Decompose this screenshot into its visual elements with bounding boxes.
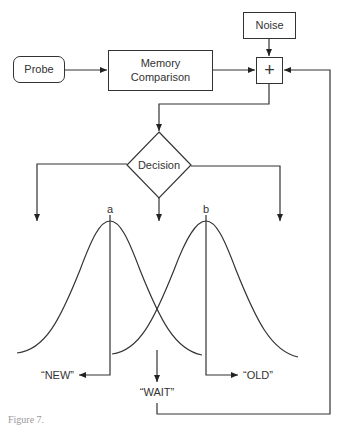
arrow-criterion-b-to-old — [206, 215, 238, 375]
probe-node: Probe — [13, 56, 65, 83]
arrow-decision-left — [37, 164, 127, 221]
noise-node: Noise — [243, 12, 296, 39]
plus-icon: + — [264, 59, 275, 82]
arrow-criterion-a-to-new — [79, 215, 110, 375]
criterion-b-label: b — [203, 204, 209, 215]
arrow-sum-to-decision — [159, 84, 269, 131]
noise-label: Noise — [255, 19, 283, 33]
decision-label: Decision — [138, 160, 180, 171]
memory-comparison-label: Memory Comparison — [117, 57, 204, 85]
response-new-label: “NEW” — [41, 370, 74, 381]
criterion-a-label: a — [107, 204, 113, 215]
response-wait-label: “WAIT” — [140, 387, 174, 398]
probe-label: Probe — [24, 63, 53, 77]
arrow-wait-feedback-to-sum — [157, 70, 330, 414]
memory-comparison-node: Memory Comparison — [108, 50, 213, 91]
figure-caption: Figure 7. — [8, 414, 44, 425]
response-old-label: “OLD” — [243, 370, 273, 381]
sum-node: + — [256, 57, 283, 84]
distribution-b-curve — [112, 221, 298, 357]
